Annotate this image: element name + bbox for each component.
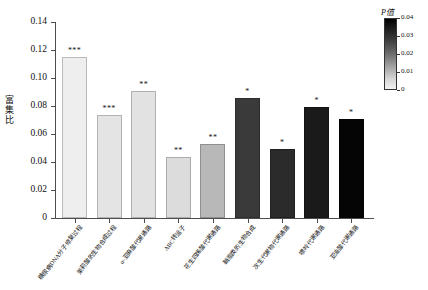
- x-axis-tick: [317, 219, 318, 223]
- y-axis-tick-label: 0.06: [3, 128, 47, 138]
- significance-marker: ***: [97, 104, 122, 113]
- legend-title: P值: [381, 6, 394, 17]
- x-axis-category-label-text: 嘌呤代谢通路: [297, 223, 326, 257]
- significance-marker: **: [131, 80, 156, 89]
- x-axis-tick: [248, 219, 249, 223]
- legend-tick: [397, 54, 400, 55]
- significance-marker: *: [339, 108, 364, 117]
- y-axis-tick: [51, 22, 56, 23]
- legend-tick-label: 0.02: [401, 49, 413, 57]
- x-axis-category-label-text: 亚油酸代谢通路: [327, 223, 360, 262]
- y-axis-tick-label: 0.02: [3, 184, 47, 194]
- legend-tick: [397, 72, 400, 73]
- y-axis-tick: [51, 190, 56, 191]
- x-axis-category-label-text: ABC转运子: [161, 223, 187, 253]
- x-axis-category-label-text: 次生代谢物代谢通路: [251, 223, 291, 271]
- x-axis-tick: [75, 219, 76, 223]
- legend-tick-label: 0.01: [401, 67, 413, 75]
- x-axis-tick: [144, 219, 145, 223]
- legend-tick-label: 0.04: [401, 13, 413, 21]
- x-axis-category-label-text: 花生四烯酸代谢通路: [182, 223, 222, 271]
- y-axis-tick-label: 0.12: [3, 44, 47, 54]
- y-axis-tick: [51, 134, 56, 135]
- y-axis-tick-label: 0: [3, 212, 47, 222]
- y-axis-tick-label: 0.14: [3, 16, 47, 26]
- y-axis-tick: [51, 50, 56, 51]
- significance-marker: ***: [62, 46, 87, 55]
- y-axis-tick: [51, 218, 56, 219]
- significance-marker: **: [200, 133, 225, 142]
- legend-tick: [397, 90, 400, 91]
- significance-marker: **: [166, 146, 191, 155]
- significance-marker: *: [235, 87, 260, 96]
- bar: [200, 144, 225, 218]
- y-axis-tick-label: 0.04: [3, 156, 47, 166]
- legend-tick: [397, 18, 400, 19]
- y-axis-tick: [51, 162, 56, 163]
- legend-tick-label: 0: [401, 85, 405, 93]
- bar: [62, 57, 87, 218]
- legend-colorbar: [384, 18, 397, 90]
- bar-chart: 富集比 00.020.040.060.080.100.120.14 ******…: [0, 0, 428, 290]
- x-axis-category-label-text: 鞘脂类的生物合成: [220, 223, 257, 266]
- significance-marker: *: [270, 138, 295, 147]
- legend-title-unit: 值: [386, 8, 394, 17]
- x-axis-category-label-text: α-亚麻酸代谢通路: [117, 223, 153, 266]
- legend-tick-label: 0.03: [401, 31, 413, 39]
- y-axis-tick-label: 0.08: [3, 100, 47, 110]
- significance-marker: *: [304, 96, 329, 105]
- y-axis-line: [55, 22, 56, 218]
- y-axis-title-char: 比: [2, 115, 16, 125]
- legend-tick: [397, 36, 400, 37]
- y-axis-tick-label: 0.10: [3, 72, 47, 82]
- y-axis-tick: [51, 106, 56, 107]
- y-axis-tick: [51, 78, 56, 79]
